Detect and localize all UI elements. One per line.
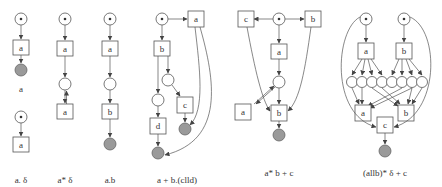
place [273,76,285,88]
net-a-delta: a a. δ [13,111,29,185]
place [152,94,164,106]
transition-label: b [277,108,282,118]
place [59,78,71,90]
place [367,77,378,88]
place [407,77,418,88]
token-icon [403,18,406,21]
token-icon [109,18,112,21]
net-a-star-b-plus-c: c b a a b a* b + c [235,11,321,178]
place [104,78,116,90]
transition-label: d [156,121,161,131]
transition-label: a [19,140,23,150]
token-icon [278,18,281,21]
transition-label: c [244,14,248,24]
net-a-par-b-star-delta-plus-c: a b a b c [341,13,431,178]
net-a-plus-b-c-par-d: a b c d a + b.(clld) [150,11,211,185]
petri-net-diagram: a a a a. δ a a a* δ a b [0,0,442,187]
final-place [379,145,391,157]
final-place [179,123,191,135]
token-icon [20,18,23,21]
place [377,77,388,88]
place [347,77,358,88]
net-a: a a [13,13,29,94]
transition-label: b [402,46,407,56]
transition-label: a [364,46,368,56]
final-place [273,129,285,141]
transition-label: c [183,100,187,110]
caption: (allb)* δ + c [363,168,407,178]
caption: a [19,84,23,94]
caption: a* b + c [265,168,294,178]
transition-label: a [63,44,67,54]
transition-label: a [361,108,365,118]
net-a-dot-b: a b a.b [102,13,118,185]
final-place [152,147,164,159]
token-icon [64,18,67,21]
place [387,77,398,88]
token-icon [161,18,164,21]
transition-label: b [311,14,316,24]
transition-label: a [19,43,23,53]
place [357,77,368,88]
transition-label: a [108,44,112,54]
token-icon [365,18,368,21]
place [162,74,174,86]
transition-label: a [277,47,281,57]
transition-label: c [383,120,387,130]
net-a-star-delta: a a a* δ [57,13,73,185]
place [397,77,408,88]
transition-label: a [63,107,67,117]
final-place [104,138,116,150]
token-icon [20,116,23,119]
caption: a.b [105,175,116,185]
place [417,77,428,88]
final-place [15,64,27,76]
caption: a. δ [15,175,28,185]
caption: a* δ [58,175,73,185]
transition-label: b [404,108,409,118]
caption: a + b.(clld) [157,175,197,185]
transition-label: a [241,107,245,117]
transition-label: a [194,14,198,24]
transition-label: b [108,107,113,117]
transition-label: b [160,44,165,54]
